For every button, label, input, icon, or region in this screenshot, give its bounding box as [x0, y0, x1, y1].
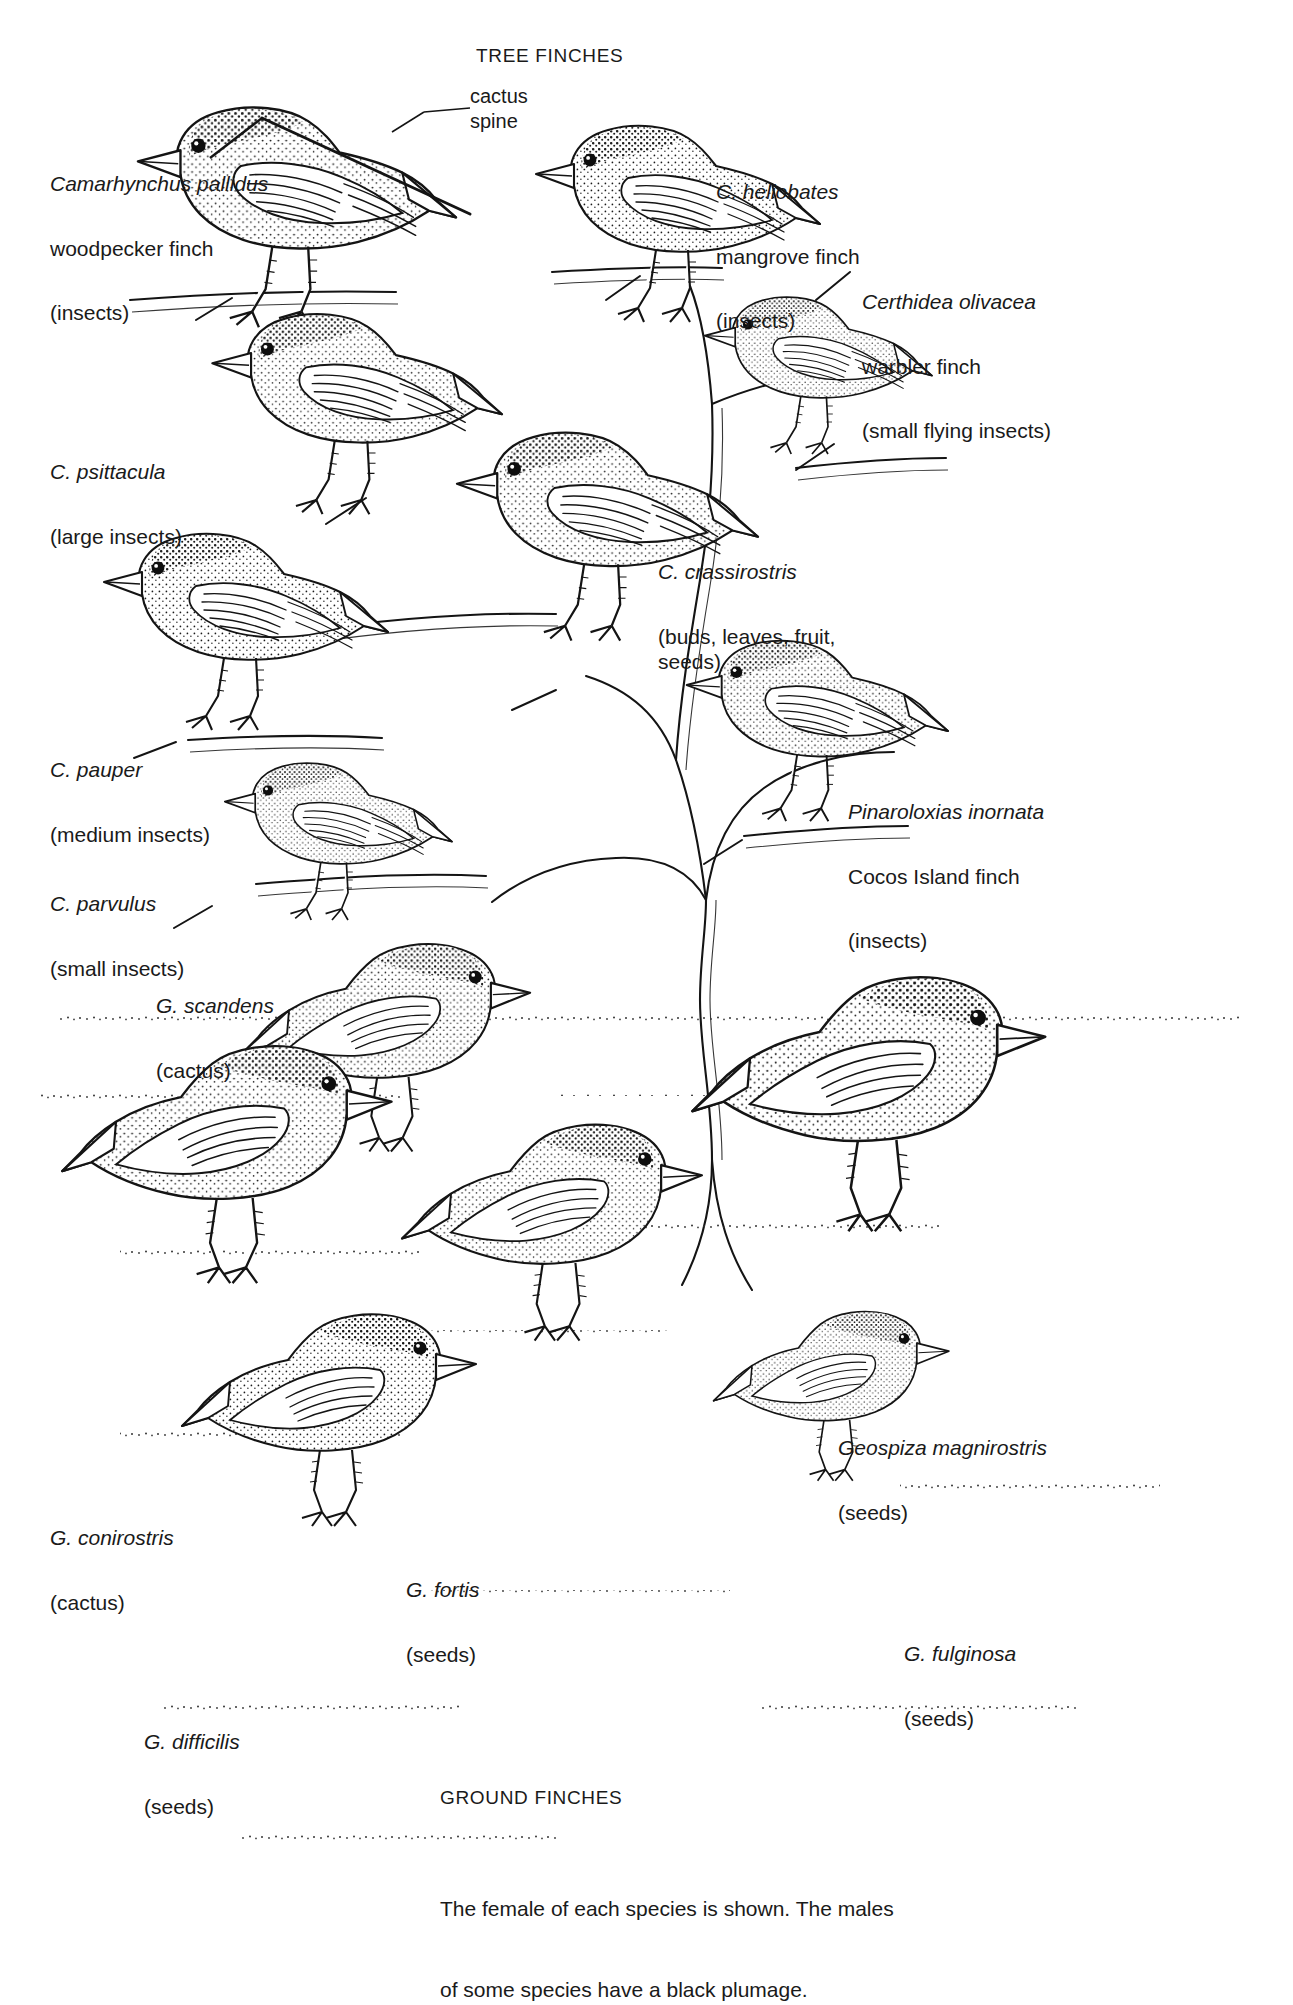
diet: (small flying insects) — [862, 418, 1051, 444]
title-ground-finches: GROUND FINCHES — [440, 1786, 622, 1809]
bird-g-fortis — [402, 1125, 702, 1341]
diet: (cactus) — [156, 1058, 274, 1084]
label-geospiza-magnirostris: Geospiza magnirostris (seeds) — [838, 1396, 1047, 1564]
bird-g-difficilis — [182, 1314, 476, 1526]
diet: (insects) — [848, 928, 1044, 954]
callout-line2: spine — [470, 110, 518, 132]
diet: (insects) — [716, 308, 860, 334]
species-name: Camarhynchus pallidus — [50, 171, 268, 197]
species-name: C. parvulus — [50, 891, 184, 917]
common-name: woodpecker finch — [50, 236, 268, 262]
label-g-fortis: G. fortis (seeds) — [406, 1538, 480, 1706]
diet: (cactus) — [50, 1590, 174, 1616]
label-g-fulginosa: G. fulginosa (seeds) — [904, 1602, 1016, 1770]
diet: (seeds) — [406, 1642, 480, 1668]
label-woodpecker-finch: Camarhynchus pallidus woodpecker finch (… — [50, 132, 268, 365]
species-name: C. crassirostris — [658, 559, 835, 585]
species-name: G. fortis — [406, 1577, 480, 1603]
species-name: Certhidea olivacea — [862, 289, 1051, 315]
label-c-psittacula: C. psittacula (large insects) — [50, 420, 182, 588]
species-name: C. psittacula — [50, 459, 182, 485]
diet: (seeds) — [904, 1706, 1016, 1732]
callout-line1: cactus — [470, 85, 528, 107]
caption-line1: The female of each species is shown. The… — [440, 1895, 894, 1922]
title-tree-finches: TREE FINCHES — [476, 44, 623, 67]
common-name: warbler finch — [862, 354, 1051, 380]
diet: (seeds) — [144, 1794, 240, 1820]
label-g-scandens: G. scandens (cactus) — [156, 954, 274, 1122]
species-name: G. scandens — [156, 993, 274, 1019]
figure-caption: The female of each species is shown. The… — [440, 1840, 894, 2005]
common-name: mangrove finch — [716, 244, 860, 270]
diet: (medium insects) — [50, 822, 210, 848]
species-name: Geospiza magnirostris — [838, 1435, 1047, 1461]
label-g-difficilis: G. difficilis (seeds) — [144, 1690, 240, 1858]
label-c-crassirostris: C. crassirostris (buds, leaves, fruit, s… — [658, 520, 835, 714]
caption-line2: of some species have a black plumage. — [440, 1976, 894, 2003]
common-name: Cocos Island finch — [848, 864, 1044, 890]
species-name: Pinaroloxias inornata — [848, 799, 1044, 825]
species-name: G. difficilis — [144, 1729, 240, 1755]
species-name: C. heliobates — [716, 179, 860, 205]
diet: (insects) — [50, 300, 268, 326]
species-name: G. fulginosa — [904, 1641, 1016, 1667]
label-mangrove-finch: C. heliobates mangrove finch (insects) — [716, 140, 860, 373]
diet: (large insects) — [50, 524, 182, 550]
diet: (buds, leaves, fruit, seeds) — [658, 624, 835, 675]
label-g-conirostris: G. conirostris (cactus) — [50, 1486, 174, 1654]
label-cocos-island-finch: Pinaroloxias inornata Cocos Island finch… — [848, 760, 1044, 993]
label-warbler-finch: Certhidea olivacea warbler finch (small … — [862, 250, 1051, 483]
callout-cactus-spine: cactusspine — [470, 84, 528, 134]
diet: (seeds) — [838, 1500, 1047, 1526]
species-name: G. conirostris — [50, 1525, 174, 1551]
species-name: C. pauper — [50, 757, 210, 783]
